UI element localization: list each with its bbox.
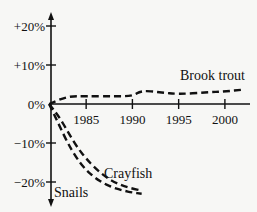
y-axis-arrow-down-icon xyxy=(48,199,54,207)
series-line-brook-trout xyxy=(49,90,243,104)
x-tick-label: 1995 xyxy=(166,112,192,127)
y-tick-label: +20% xyxy=(14,19,45,34)
y-tick-label: 0% xyxy=(28,97,46,112)
y-tick-label: −20% xyxy=(14,175,45,190)
y-tick-label: +10% xyxy=(14,58,45,73)
x-tick-label: 1985 xyxy=(73,112,99,127)
series-label-snails: Snails xyxy=(54,185,88,200)
y-tick-label: −10% xyxy=(14,136,45,151)
y-axis-arrow-up-icon xyxy=(48,12,54,20)
series-label-brook-trout: Brook trout xyxy=(180,68,245,83)
series-labels: Brook troutCrayfishSnails xyxy=(54,68,245,200)
series-label-crayfish: Crayfish xyxy=(104,166,152,181)
line-chart: +20%+10%0%−10%−20% 1985199019952000 Broo… xyxy=(0,0,257,212)
x-tick-label: 2000 xyxy=(212,112,238,127)
x-tick-label: 1990 xyxy=(119,112,145,127)
